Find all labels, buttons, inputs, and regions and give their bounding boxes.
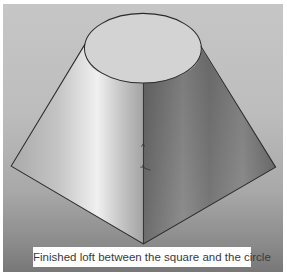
figure-frame: Finished loft between the square and the…: [3, 4, 283, 272]
top-circle: [84, 13, 201, 83]
loft-render: [3, 4, 283, 272]
figure-caption: Finished loft between the square and the…: [33, 247, 251, 267]
